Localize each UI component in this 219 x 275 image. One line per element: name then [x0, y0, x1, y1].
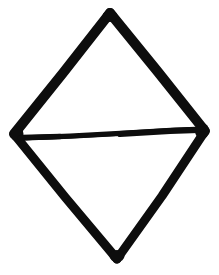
- drawing-canvas: [0, 0, 219, 275]
- top-vertex-blob: [103, 10, 118, 22]
- diamond-figure: [0, 0, 219, 275]
- bottom-vertex-blob: [110, 250, 125, 262]
